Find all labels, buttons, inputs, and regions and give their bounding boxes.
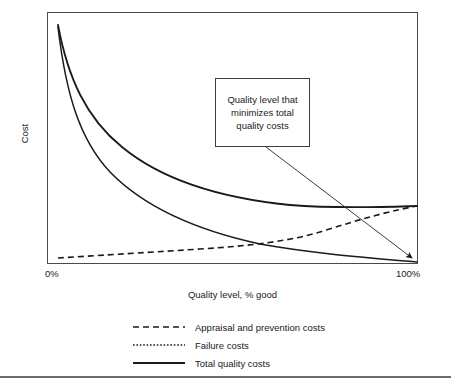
x-axis-label: Quality level, % good <box>47 289 418 300</box>
callout-line-3: quality costs <box>236 119 288 132</box>
optimum-callout-box: Quality level that minimizes total quali… <box>215 78 310 147</box>
y-axis-label: Cost <box>19 104 30 164</box>
legend-item-failure-costs: Failure costs <box>132 336 402 354</box>
legend-item-total-quality-costs: Total quality costs <box>132 354 402 372</box>
x-tick-label-left: 0% <box>45 268 59 279</box>
legend-swatch-solid-line <box>132 357 186 369</box>
callout-leader-line <box>266 147 412 258</box>
chart-legend: Appraisal and prevention costs Failure c… <box>132 318 402 372</box>
callout-line-2: minimizes total <box>231 106 294 119</box>
legend-label-total-quality-costs: Total quality costs <box>195 358 270 369</box>
legend-label-appraisal-prevention: Appraisal and prevention costs <box>195 322 325 333</box>
series-appraisal-prevention-costs <box>58 206 417 258</box>
legend-swatch-dashed-line <box>132 321 186 333</box>
callout-line-1: Quality level that <box>227 93 297 106</box>
legend-swatch-dotted-line <box>132 339 186 351</box>
footer-divider <box>0 376 451 378</box>
quality-cost-chart-figure: Cost Quality level, % good 0% 100% Quali… <box>0 0 451 384</box>
legend-item-appraisal-prevention: Appraisal and prevention costs <box>132 318 402 336</box>
legend-label-failure-costs: Failure costs <box>195 340 249 351</box>
x-tick-label-right: 100% <box>396 268 420 279</box>
